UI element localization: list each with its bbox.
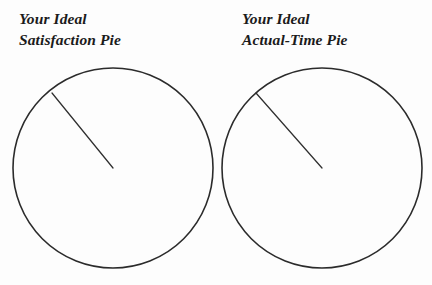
pie-title-line-2: Actual-Time Pie <box>242 30 348 51</box>
pie-panel-satisfaction: Your Ideal Satisfaction Pie <box>0 0 216 285</box>
pie-title-line-1: Your Ideal <box>242 9 348 30</box>
pie-radius-divider <box>52 93 113 168</box>
pie-panel-actual-time: Your Ideal Actual-Time Pie <box>216 0 432 285</box>
pie-title-actual-time: Your Ideal Actual-Time Pie <box>242 9 348 50</box>
pie-circle-outline <box>13 68 213 268</box>
pie-title-line-2: Satisfaction Pie <box>19 30 121 51</box>
pie-title-line-1: Your Ideal <box>19 9 121 30</box>
pie-title-satisfaction: Your Ideal Satisfaction Pie <box>19 9 121 50</box>
pie-radius-divider <box>256 93 322 168</box>
pie-circle-outline <box>222 68 422 268</box>
pie-worksheet: Your Ideal Satisfaction Pie Your Ideal A… <box>0 0 432 285</box>
